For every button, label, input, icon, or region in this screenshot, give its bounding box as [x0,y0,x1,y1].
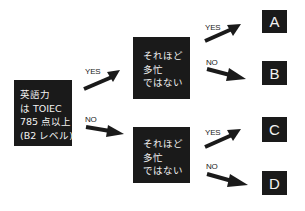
label-top-yes: YES [205,23,220,32]
label-bottom-no: NO [206,162,218,171]
arrow-top-no-icon [207,68,246,81]
arrow-root-no-icon [86,125,124,137]
arrow-bottom-no-icon [207,174,248,187]
label-root-yes: YES [85,67,100,76]
label-top-no: NO [206,58,218,67]
label-root-no: NO [85,115,97,124]
arrows-layer [0,0,305,211]
label-bottom-yes: YES [205,128,220,137]
